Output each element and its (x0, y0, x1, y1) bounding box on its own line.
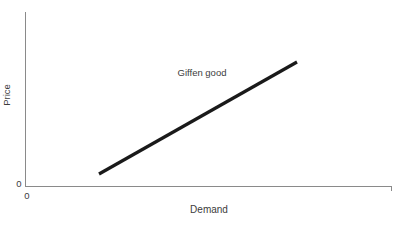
y-axis-label: Price (2, 84, 12, 106)
giffen-good-chart: Price Demand Giffen good 0 0 (0, 0, 409, 225)
giffen-good-demand-line (99, 62, 297, 174)
y-axis-origin-label: 0 (16, 179, 21, 189)
chart-plot-area (0, 0, 409, 225)
x-axis-origin-label: 0 (24, 191, 29, 201)
series-annotation-giffen-good: Giffen good (178, 68, 227, 78)
x-axis-label: Demand (190, 205, 228, 215)
